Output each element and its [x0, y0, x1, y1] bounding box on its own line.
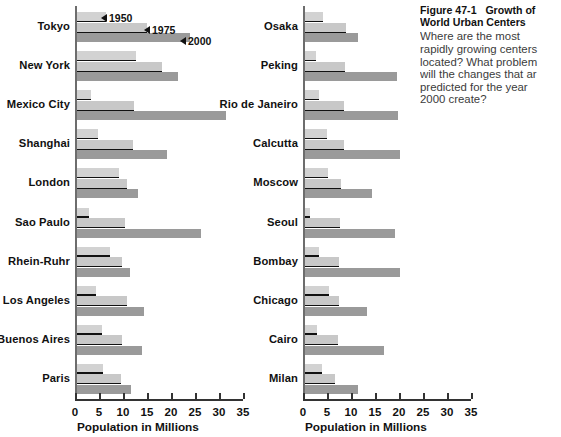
caption-line: predicted for the year [420, 81, 561, 94]
axis-tick [471, 393, 473, 399]
axis-tick-label: 25 [417, 406, 430, 418]
legend-label-1950: 1950 [109, 12, 132, 24]
bar-2000 [77, 72, 178, 81]
axis-tick-label: 25 [189, 406, 202, 418]
bar-2000 [305, 111, 398, 120]
bar-1975 [77, 296, 127, 306]
bar-baseline-rule [77, 177, 119, 179]
bar-1975 [305, 257, 339, 267]
caption-line: will the changes that ar [420, 68, 561, 81]
chart-panel-left: TokyoNew YorkMexico CityShanghaiLondonSa… [0, 0, 258, 437]
bar-1975 [305, 296, 339, 306]
category-label: Peking [261, 59, 298, 71]
bar-baseline-rule [305, 333, 317, 335]
category-label: Buenos Aires [0, 333, 70, 345]
bar-1975 [77, 257, 122, 267]
bar-1975 [305, 140, 344, 150]
axis-tick [99, 393, 101, 399]
caption-body: Where are the mostrapidly growing center… [420, 30, 561, 106]
bar-1975 [77, 335, 122, 345]
bar-1975 [77, 179, 127, 189]
axis-tick-label: 20 [393, 406, 406, 418]
axis-tick [123, 393, 125, 399]
axis-title: Population in Millions [305, 420, 427, 434]
axis-tick-label: 0 [300, 406, 306, 418]
category-label: Shanghai [19, 137, 70, 149]
bar-baseline-rule [77, 333, 102, 335]
bar-2000 [77, 307, 144, 316]
axis-title: Population in Millions [77, 420, 199, 434]
bar-baseline-rule [77, 60, 136, 62]
bar-2000 [77, 150, 167, 159]
axis-tick [219, 393, 221, 399]
bar-baseline-rule [305, 60, 316, 62]
bar-2000 [77, 229, 201, 238]
axis-tick [375, 393, 377, 399]
caption-title-line1: Figure 47-1 Growth of [420, 4, 561, 16]
bar-baseline-rule [77, 255, 110, 257]
category-label: Milan [269, 372, 298, 384]
axis-tick-label: 30 [441, 406, 454, 418]
bar-1975 [77, 374, 121, 384]
caption-line: Where are the most [420, 30, 561, 43]
bar-baseline-rule [305, 99, 319, 101]
category-label: Osaka [264, 20, 298, 32]
bar-1975 [77, 218, 125, 228]
axis-tick-label: 5 [96, 406, 102, 418]
plot-area-left [75, 6, 251, 399]
bar-2000 [305, 346, 384, 355]
bar-1975 [305, 335, 338, 345]
axis-line [75, 399, 243, 401]
category-label: New York [19, 59, 70, 71]
figure-root: TokyoNew YorkMexico CityShanghaiLondonSa… [0, 0, 561, 437]
category-label: Calcutta [253, 137, 298, 149]
figure-caption: Figure 47-1 Growth of World Urban Center… [420, 4, 561, 106]
bar-baseline-rule [305, 216, 310, 218]
axis-line [303, 399, 471, 401]
bar-2000 [305, 72, 397, 81]
bar-2000 [305, 307, 367, 316]
bar-2000 [77, 189, 138, 198]
axis-tick-label: 15 [369, 406, 382, 418]
bar-baseline-rule [77, 138, 98, 140]
axis-tick [195, 393, 197, 399]
bar-2000 [305, 33, 358, 42]
bar-1975 [77, 140, 133, 150]
axis-tick-label: 10 [345, 406, 358, 418]
bar-1975 [305, 23, 346, 33]
bar-baseline-rule [305, 372, 322, 374]
bar-1975 [77, 62, 162, 72]
axis-tick-label: 10 [117, 406, 130, 418]
bar-1975 [305, 218, 340, 228]
bar-baseline-rule [77, 294, 96, 296]
axis-tick [303, 393, 305, 399]
category-label: Rhein-Ruhr [8, 255, 70, 267]
category-label: Tokyo [37, 20, 70, 32]
category-label: Moscow [253, 176, 298, 188]
category-label: Paris [42, 372, 70, 384]
caption-line: located? What problem [420, 56, 561, 69]
bar-2000 [77, 111, 226, 120]
axis-tick-label: 20 [165, 406, 178, 418]
bar-baseline-rule [77, 216, 89, 218]
caption-title-line2: World Urban Centers [420, 16, 561, 28]
legend-callout-1975: 1975 [144, 24, 175, 36]
bar-baseline-rule [77, 372, 103, 374]
bar-baseline-rule [305, 294, 329, 296]
legend-label-2000: 2000 [188, 35, 211, 47]
axis-tick [147, 393, 149, 399]
arrow-left-icon [101, 14, 107, 22]
bar-2000 [305, 229, 395, 238]
category-label: Cairo [269, 333, 298, 345]
bar-1975 [305, 179, 341, 189]
figure-number: Figure 47-1 [420, 4, 477, 16]
axis-tick-label: 35 [465, 406, 478, 418]
axis-tick [447, 393, 449, 399]
figure-title: Growth of [485, 4, 535, 16]
category-label: Seoul [267, 216, 298, 228]
bar-baseline-rule [305, 21, 323, 23]
category-label: Mexico City [7, 98, 70, 110]
arrow-left-icon [144, 26, 150, 34]
bar-baseline-rule [305, 138, 327, 140]
bar-1975 [305, 101, 344, 111]
